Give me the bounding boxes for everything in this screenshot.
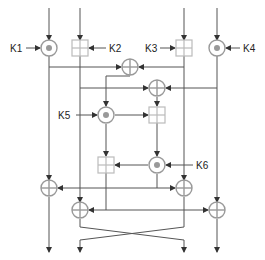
key-label-k2: K2 <box>109 43 122 54</box>
xor-5-operator <box>72 202 88 218</box>
input-lines <box>49 8 217 40</box>
key-label-k4: K4 <box>243 43 256 54</box>
mult-k4-operator <box>209 40 225 56</box>
idea-round-diagram: K1 K2 K3 K4 K5 K6 <box>0 0 265 260</box>
key-label-k6: K6 <box>196 160 209 171</box>
xor-3-operator <box>41 180 57 196</box>
key-label-k1: K1 <box>10 43 23 54</box>
add-ma-2-operator <box>98 157 114 173</box>
xor-4-operator <box>176 180 192 196</box>
vertical-lines <box>49 56 217 202</box>
key-label-k5: K5 <box>58 110 71 121</box>
add-k3-operator <box>176 40 192 56</box>
add-ma-1-operator <box>149 107 165 123</box>
key-label-k3: K3 <box>145 43 158 54</box>
xor-6-operator <box>209 202 225 218</box>
add-k2-operator <box>72 40 88 56</box>
xor-2-operator <box>149 80 165 96</box>
mult-k1-operator <box>41 40 57 56</box>
xor-1-operator <box>122 59 138 75</box>
mult-k5-operator <box>98 107 114 123</box>
mult-k6-operator <box>149 157 165 173</box>
